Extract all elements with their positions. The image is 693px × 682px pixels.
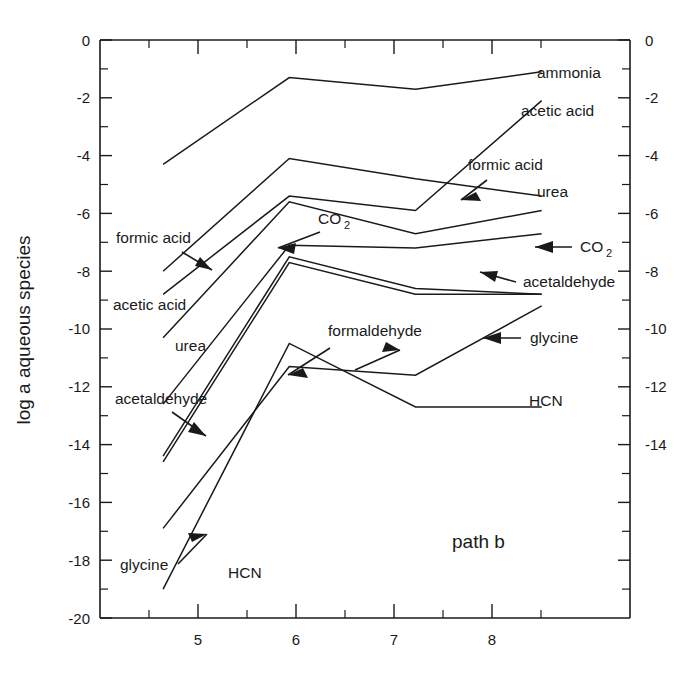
y-tick-label-right: -4 [645,147,658,164]
y-tick-label: -2 [77,89,90,106]
figure-container: 0 -2 -4 -6 -8 -10 -12 -14 -16 -18 -20 [0,0,693,682]
arrow-acetaldehyde-left [188,422,206,436]
annotation-co2-right: CO [580,238,603,255]
arrow-formic-acid-right [461,192,481,201]
x-tick-label: 7 [390,631,398,648]
y-tick-label: -16 [68,494,90,511]
annotation-urea-right: urea [537,183,568,200]
y-tick-label-right: -12 [645,378,667,395]
annotation-acetaldehyde-right: acetaldehyde [523,273,615,290]
y-axis-right-ticks [618,40,630,589]
x-tick-label: 6 [292,631,300,648]
series-line-co2 [163,234,542,405]
series-line-glycine [163,306,542,529]
x-axis-tick-labels: 5 6 7 8 [194,631,496,648]
line-chart-svg: 0 -2 -4 -6 -8 -10 -12 -14 -16 -18 -20 [0,0,693,682]
arrow-co2-right [535,241,553,253]
series-line-urea [163,202,542,338]
y-tick-label: -8 [77,263,90,280]
annotation-acetaldehyde-left: acetaldehyde [115,390,207,407]
annotation-co2-inner: CO [318,210,341,227]
annotation-formaldehyde-inner: formaldehyde [328,322,422,339]
annotation-formic-acid-left: formic acid [116,229,191,246]
annotation-hcn-left: HCN [228,564,262,581]
y-tick-label: -6 [77,205,90,222]
y-tick-label: 0 [82,32,90,49]
y-tick-label-right: -10 [645,320,667,337]
annotation-glycine-right: glycine [530,329,578,346]
co2-subscript-inner: 2 [344,219,350,231]
annotation-labels: formic acid acetic acid urea acetaldehyd… [113,64,615,581]
y-tick-label-right: -14 [645,436,667,453]
annotation-glycine-left: glycine [120,556,168,573]
y-axis-right-tick-labels: 0 -2 -4 -6 -8 -10 -12 -14 [645,32,667,453]
co2-subscript-right: 2 [606,247,612,259]
y-tick-label: -18 [68,552,90,569]
annotation-urea-left: urea [175,337,206,354]
y-tick-label: -20 [68,610,90,627]
y-tick-label: -12 [68,378,90,395]
y-tick-label: -14 [68,436,90,453]
y-axis-left-tick-labels: 0 -2 -4 -6 -8 -10 -12 -14 -16 -18 -20 [68,32,90,627]
annotation-acetic-acid-left: acetic acid [113,296,186,313]
panel-label: path b [452,531,505,552]
series-line-acetaldehyde [163,257,542,456]
annotation-acetic-acid-right: acetic acid [521,102,594,119]
y-tick-label-right: -8 [645,263,658,280]
series-line-formic-acid [163,158,542,271]
annotation-hcn-right: HCN [529,392,563,409]
y-tick-label-right: 0 [645,32,653,49]
x-tick-label: 8 [488,631,496,648]
y-tick-label: -10 [68,320,90,337]
series-line-hcn [163,343,542,589]
arrow-acetaldehyde-right [480,271,498,282]
y-tick-label-right: -6 [645,205,658,222]
annotation-formic-acid-right: formic acid [468,156,543,173]
y-axis-title: log a aqueous species [13,235,34,424]
series-line-acetic-acid [163,101,542,295]
y-axis-left-ticks [100,40,112,618]
y-tick-label-right: -2 [645,89,658,106]
x-tick-label: 5 [194,631,202,648]
annotation-ammonia-right: ammonia [537,64,601,81]
y-tick-label: -4 [77,147,90,164]
